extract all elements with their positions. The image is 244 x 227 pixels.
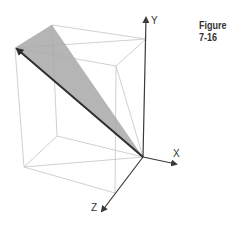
y-axis-label: Y [151,15,158,26]
x-axis [143,157,176,164]
figure-caption: Figure 7-16 [199,19,236,43]
z-axis-label: Z [91,202,97,213]
x-axis-label: X [173,148,180,159]
vector-arrow [17,49,143,157]
z-axis [102,157,143,211]
